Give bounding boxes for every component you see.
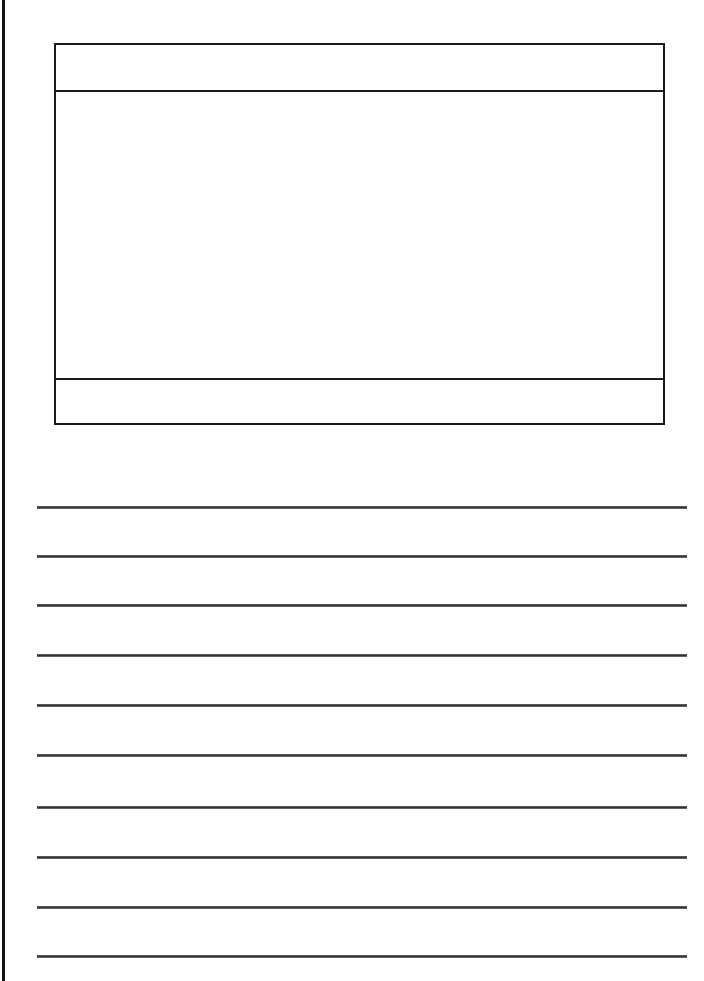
writing-lines — [37, 0, 687, 981]
writing-line-4[interactable] — [37, 654, 687, 657]
writing-line-9[interactable] — [37, 906, 687, 909]
writing-line-3[interactable] — [37, 604, 687, 607]
writing-line-8[interactable] — [37, 856, 687, 859]
page-left-border — [2, 0, 5, 981]
writing-line-10[interactable] — [37, 955, 687, 958]
writing-line-6[interactable] — [37, 754, 687, 757]
writing-line-5[interactable] — [37, 704, 687, 707]
writing-line-1[interactable] — [37, 506, 687, 509]
writing-line-2[interactable] — [37, 555, 687, 558]
writing-line-7[interactable] — [37, 806, 687, 809]
